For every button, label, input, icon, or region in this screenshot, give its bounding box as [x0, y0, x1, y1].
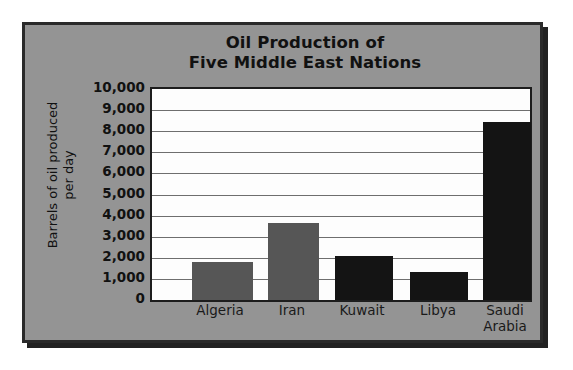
- bar-kuwait: [335, 256, 393, 300]
- y-axis-tick-label: 5,000: [77, 185, 145, 201]
- y-axis-tick-label: 6,000: [77, 163, 145, 179]
- bar-libya: [410, 272, 468, 300]
- bar-iran: [268, 223, 319, 300]
- x-axis-tick-label-line: Saudi: [455, 303, 555, 319]
- gridline: [152, 110, 530, 111]
- y-axis-title-line-1: Barrels of oil produced: [45, 75, 61, 275]
- x-axis-tick-label: SaudiArabia: [455, 303, 555, 335]
- chart-panel: Oil Production of Five Middle East Natio…: [22, 22, 543, 343]
- y-axis-title-line-2: per day: [61, 75, 77, 275]
- chart-title-line-1: Oil Production of: [85, 33, 525, 53]
- gridline: [152, 131, 530, 132]
- gridline: [152, 195, 530, 196]
- y-axis-tick-label: 9,000: [77, 100, 145, 116]
- y-axis-tick-label: 4,000: [77, 206, 145, 222]
- gridline: [152, 173, 530, 174]
- bar-algeria: [192, 262, 253, 300]
- x-axis-tick-labels: AlgeriaIranKuwaitLibyaSaudiArabia: [150, 303, 528, 348]
- bar-saudi-arabia: [483, 122, 531, 300]
- y-axis-tick-label: 1,000: [77, 269, 145, 285]
- y-axis-tick-label: 3,000: [77, 227, 145, 243]
- y-axis-tick-label: 10,000: [77, 79, 145, 95]
- chart-title: Oil Production of Five Middle East Natio…: [85, 33, 525, 73]
- y-axis-tick-label: 8,000: [77, 121, 145, 137]
- y-axis-tick-label: 7,000: [77, 142, 145, 158]
- y-axis-tick-label: 0: [77, 290, 145, 306]
- plot-area: [150, 87, 532, 302]
- y-axis-tick-labels: 10,0009,0008,0007,0006,0005,0004,0003,00…: [77, 87, 145, 298]
- gridline: [152, 216, 530, 217]
- gridline: [152, 152, 530, 153]
- y-axis-tick-label: 2,000: [77, 248, 145, 264]
- gridline: [152, 237, 530, 238]
- x-axis-tick-label-line: Arabia: [455, 319, 555, 335]
- chart-figure: Oil Production of Five Middle East Natio…: [0, 0, 573, 370]
- chart-title-line-2: Five Middle East Nations: [85, 53, 525, 73]
